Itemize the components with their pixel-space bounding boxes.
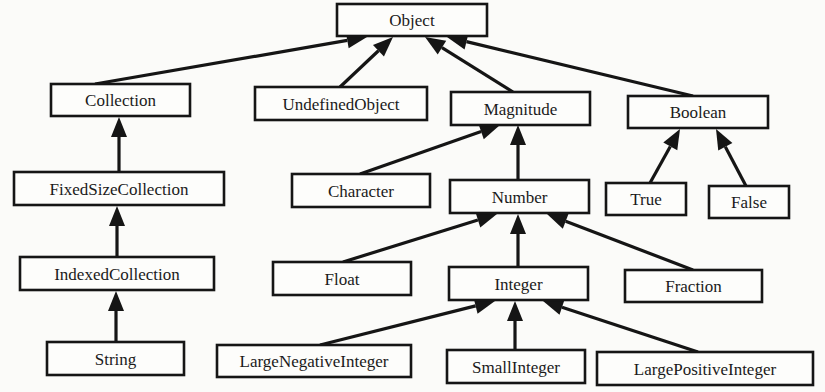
- arrowhead-icon: [507, 301, 523, 321]
- edge-line: [442, 48, 513, 92]
- arrowhead-icon: [547, 214, 569, 229]
- edge-large-positive-integer-to-integer: [543, 300, 698, 352]
- arrowhead-icon: [425, 37, 446, 54]
- class-node-object: Object: [337, 4, 487, 36]
- arrowhead-icon: [478, 124, 500, 139]
- edge-fixed-size-collection-to-collection: [111, 117, 127, 172]
- arrowhead-icon: [510, 125, 526, 145]
- edge-line: [562, 307, 698, 352]
- class-label: Object: [389, 11, 435, 30]
- class-label: SmallInteger: [472, 358, 560, 377]
- class-node-number: Number: [450, 180, 589, 213]
- arrowhead-icon: [716, 129, 732, 150]
- arrowhead-icon: [109, 206, 125, 226]
- edge-line: [343, 220, 478, 262]
- class-node-small-integer: SmallInteger: [447, 350, 585, 383]
- class-node-indexed-collection: IndexedCollection: [20, 257, 214, 290]
- class-node-boolean: Boolean: [628, 96, 768, 128]
- edge-true-to-boolean: [650, 129, 680, 183]
- edge-integer-to-number: [510, 214, 526, 267]
- edge-boolean-to-object: [447, 34, 693, 96]
- edge-character-to-magnitude: [360, 124, 500, 174]
- class-label: True: [630, 190, 662, 209]
- edge-line: [566, 221, 693, 270]
- class-node-character: Character: [292, 174, 430, 207]
- class-node-large-positive-integer: LargePositiveInteger: [597, 352, 813, 385]
- arrowhead-icon: [510, 214, 526, 234]
- class-label: Boolean: [670, 103, 727, 122]
- class-label: Number: [492, 188, 548, 207]
- class-label: Magnitude: [484, 100, 558, 119]
- class-hierarchy-diagram: ObjectCollectionUndefinedObjectMagnitude…: [0, 0, 825, 392]
- class-label: FixedSizeCollection: [50, 180, 189, 199]
- edge-large-negative-integer-to-integer: [320, 298, 495, 345]
- class-label: UndefinedObject: [282, 95, 399, 114]
- edge-number-to-magnitude: [510, 125, 526, 180]
- edge-line: [466, 42, 693, 96]
- class-label: LargeNegativeInteger: [240, 352, 389, 371]
- edge-float-to-number: [343, 212, 497, 262]
- arrowhead-icon: [108, 291, 124, 311]
- class-node-string: String: [47, 342, 184, 375]
- class-node-true: True: [606, 183, 686, 215]
- edge-line: [725, 147, 746, 186]
- class-node-fixed-size-collection: FixedSizeCollection: [14, 172, 224, 205]
- edge-string-to-indexed-collection: [108, 291, 124, 342]
- edge-line: [340, 51, 378, 87]
- class-label: String: [95, 350, 137, 369]
- class-label: Collection: [85, 91, 156, 110]
- class-label: Float: [325, 270, 360, 289]
- class-label: Fraction: [665, 277, 722, 296]
- class-label: Integer: [494, 275, 542, 294]
- edge-line: [360, 132, 481, 174]
- class-node-integer: Integer: [449, 267, 588, 300]
- class-node-fraction: Fraction: [625, 270, 762, 302]
- edge-small-integer-to-integer: [507, 301, 523, 350]
- arrowhead-icon: [663, 129, 680, 150]
- class-node-magnitude: Magnitude: [451, 92, 590, 125]
- class-node-collection: Collection: [51, 84, 190, 116]
- class-label: Character: [328, 182, 394, 201]
- class-nodes: ObjectCollectionUndefinedObjectMagnitude…: [14, 4, 813, 385]
- edge-fraction-to-number: [547, 214, 693, 270]
- arrowhead-icon: [543, 300, 564, 315]
- edge-indexed-collection-to-fixed-size-collection: [109, 206, 125, 257]
- arrowhead-icon: [476, 212, 497, 227]
- class-node-false: False: [709, 186, 789, 218]
- class-node-undefined-object: UndefinedObject: [255, 87, 427, 120]
- edge-undefined-object-to-object: [340, 37, 393, 87]
- class-label: False: [731, 193, 767, 212]
- arrowhead-icon: [111, 117, 127, 137]
- edge-line: [95, 40, 347, 84]
- edge-collection-to-object: [95, 33, 367, 84]
- class-label: IndexedCollection: [54, 265, 180, 284]
- edge-line: [320, 306, 476, 345]
- class-node-float: Float: [273, 262, 411, 295]
- class-node-large-negative-integer: LargeNegativeInteger: [217, 345, 411, 377]
- class-label: LargePositiveInteger: [634, 360, 777, 379]
- edge-line: [650, 146, 670, 183]
- edge-magnitude-to-object: [425, 37, 513, 92]
- edge-false-to-boolean: [716, 129, 746, 186]
